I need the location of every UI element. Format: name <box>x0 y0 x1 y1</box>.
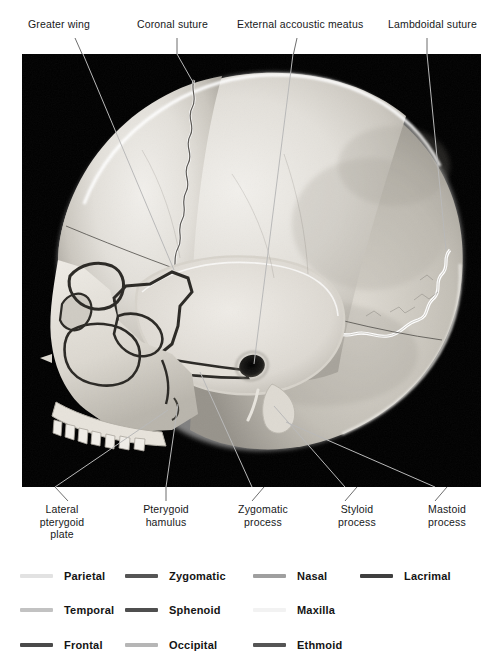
bottom-label-line: process <box>223 516 303 529</box>
legend-label-zygomatic: Zygomatic <box>169 570 226 582</box>
skull-figure <box>22 54 481 487</box>
bottom-label-line: process <box>407 516 487 529</box>
legend-item-maxilla: Maxilla <box>253 604 335 616</box>
legend-item-occipital: Occipital <box>125 639 217 651</box>
legend-swatch-frontal <box>20 643 53 647</box>
bone-color-legend: Parietal Temporal Frontal Zygomatic Sphe… <box>0 560 501 660</box>
legend-label-ethmoid: Ethmoid <box>297 639 342 651</box>
bottom-label-pterygoid-hamulus: Pterygoid hamulus <box>126 503 206 528</box>
skull-illustration <box>22 54 481 487</box>
bottom-label-line: Lateral <box>22 503 102 516</box>
photo-grain <box>22 54 481 487</box>
bottom-label-line: Styloid <box>317 503 397 516</box>
legend-label-occipital: Occipital <box>169 639 217 651</box>
bottom-label-mastoid-process: Mastoid process <box>407 503 487 528</box>
legend-label-frontal: Frontal <box>64 639 103 651</box>
legend-swatch-ethmoid <box>253 643 286 647</box>
bottom-label-line: Pterygoid <box>126 503 206 516</box>
legend-item-parietal: Parietal <box>20 570 105 582</box>
legend-swatch-lacrimal <box>360 574 393 578</box>
bottom-label-line: pterygoid <box>22 516 102 529</box>
legend-label-temporal: Temporal <box>64 604 114 616</box>
bottom-label-line: Mastoid <box>407 503 487 516</box>
legend-label-nasal: Nasal <box>297 570 327 582</box>
bottom-label-line: Zygomatic <box>223 503 303 516</box>
legend-swatch-occipital <box>125 643 158 647</box>
legend-item-temporal: Temporal <box>20 604 114 616</box>
bottom-label-lateral-pterygoid-plate: Lateral pterygoid plate <box>22 503 102 541</box>
legend-swatch-maxilla <box>253 608 286 612</box>
legend-item-lacrimal: Lacrimal <box>360 570 451 582</box>
legend-swatch-nasal <box>253 574 286 578</box>
legend-label-lacrimal: Lacrimal <box>404 570 451 582</box>
bottom-label-group: Lateral pterygoid plate Pterygoid hamulu… <box>0 495 501 555</box>
legend-item-ethmoid: Ethmoid <box>253 639 342 651</box>
legend-item-sphenoid: Sphenoid <box>125 604 221 616</box>
legend-swatch-parietal <box>20 574 53 578</box>
top-leader-lines <box>0 0 501 56</box>
bottom-label-line: hamulus <box>126 516 206 529</box>
legend-swatch-zygomatic <box>125 574 158 578</box>
bottom-label-styloid-process: Styloid process <box>317 503 397 528</box>
bottom-label-zygomatic-process: Zygomatic process <box>223 503 303 528</box>
figure-caption <box>8 662 408 671</box>
legend-label-sphenoid: Sphenoid <box>169 604 221 616</box>
legend-label-maxilla: Maxilla <box>297 604 335 616</box>
bottom-label-line: process <box>317 516 397 529</box>
legend-item-zygomatic: Zygomatic <box>125 570 226 582</box>
legend-item-frontal: Frontal <box>20 639 103 651</box>
legend-swatch-sphenoid <box>125 608 158 612</box>
bottom-label-line: plate <box>22 528 102 541</box>
legend-label-parietal: Parietal <box>64 570 105 582</box>
legend-item-nasal: Nasal <box>253 570 327 582</box>
legend-swatch-temporal <box>20 608 53 612</box>
cranium <box>22 54 481 487</box>
